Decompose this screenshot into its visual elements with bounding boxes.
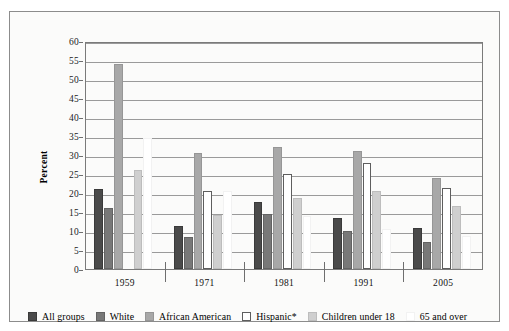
bar-hispanic-1981 [283,174,292,269]
y-axis-tick-label: 55 [69,56,79,66]
y-axis-tick-label: 50 [69,75,79,85]
y-axis-tick-label: 40 [69,113,79,123]
bar-african-american-1959 [114,64,123,269]
legend-item-african-american[interactable]: African American [145,311,231,322]
y-axis-tick-label: 0 [74,265,79,275]
legend-label: Children under 18 [322,311,395,322]
x-axis-tick-label-1959: 1959 [115,278,135,288]
bar-65-and-over-1959 [143,138,152,269]
bar-groups [86,43,482,269]
bar-white-1991 [343,231,352,269]
bar-children-under-18-2005 [452,206,461,269]
x-axis-tick-label-2005: 2005 [433,278,453,288]
x-axis-tick-label-1981: 1981 [274,278,294,288]
legend-item-65-and-over[interactable]: 65 and over [406,311,467,322]
x-axis-group-separator [165,262,166,282]
x-axis-group-separator [324,262,325,282]
legend-label: White [110,311,134,322]
legend-swatch-icon [145,312,154,321]
bar-hispanic-2005 [442,188,451,269]
legend-swatch-icon [242,312,251,321]
y-axis-title: Percent [39,150,49,183]
bar-white-2005 [423,242,432,269]
legend-swatch-icon [96,312,105,321]
bar-all-groups-1991 [333,218,342,269]
bar-african-american-1971 [194,153,203,269]
y-axis-tick-label: 15 [69,208,79,218]
figure-frame: Percent 605550454035302520151050 1959197… [9,11,500,322]
bar-african-american-2005 [432,178,441,269]
bar-group-2005 [413,43,472,269]
legend-label: African American [159,311,231,322]
bar-group-1991 [333,43,392,269]
bar-white-1959 [104,208,113,269]
x-axis-tick-label-1991: 1991 [353,278,373,288]
y-axis-tick-labels: 605550454035302520151050 [54,42,83,270]
legend-item-children-under-18[interactable]: Children under 18 [308,311,395,322]
x-axis-tick-label-1971: 1971 [194,278,214,288]
bar-all-groups-2005 [413,228,422,269]
y-axis-tick-label: 30 [69,151,79,161]
legend-swatch-icon [28,312,37,321]
x-axis-tick-labels: 19591971198119912005 [85,272,483,290]
bar-children-under-18-1981 [293,198,302,269]
bar-group-1971 [174,43,233,269]
chart-legend: All groupsWhiteAfrican AmericanHispanic*… [28,308,498,324]
bar-all-groups-1971 [174,226,183,269]
bar-african-american-1981 [273,147,282,269]
legend-label: Hispanic* [256,311,297,322]
bar-group-1981 [254,43,313,269]
y-axis-tick-label: 5 [74,246,79,256]
bar-children-under-18-1971 [213,215,222,269]
y-axis-tick-label: 20 [69,189,79,199]
y-axis-tick-label: 45 [69,94,79,104]
plot-area [85,42,483,270]
bar-hispanic-1971 [203,191,212,269]
bar-white-1971 [184,237,193,269]
bar-children-under-18-1959 [134,170,143,269]
bar-children-under-18-1991 [372,191,381,269]
legend-swatch-icon [308,312,317,321]
bar-group-1959 [94,43,153,269]
bar-65-and-over-1991 [382,229,391,269]
bar-65-and-over-2005 [462,236,471,269]
legend-swatch-icon [406,312,415,321]
legend-item-white[interactable]: White [96,311,134,322]
bar-65-and-over-1981 [303,216,312,269]
bar-all-groups-1981 [254,202,263,269]
y-axis-tick-label: 35 [69,132,79,142]
legend-item-all-groups[interactable]: All groups [28,311,85,322]
legend-label: All groups [42,311,85,322]
x-axis-group-separator [244,262,245,282]
legend-label: 65 and over [420,311,467,322]
chart-figure: Percent 605550454035302520151050 1959197… [0,0,509,331]
x-axis-group-separator [403,262,404,282]
legend-item-hispanic[interactable]: Hispanic* [242,311,297,322]
y-axis-tick-label: 60 [69,37,79,47]
bar-african-american-1991 [353,151,362,269]
bar-white-1981 [263,214,272,269]
bar-hispanic-1991 [363,163,372,269]
y-axis-tick-label: 10 [69,227,79,237]
bar-all-groups-1959 [94,189,103,269]
y-axis-tick-label: 25 [69,170,79,180]
bar-65-and-over-1971 [223,191,232,269]
